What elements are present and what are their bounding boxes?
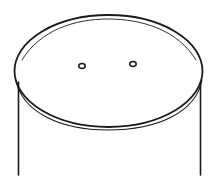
lid-rim-edge: [16, 80, 202, 130]
hole-icon: [130, 62, 136, 67]
lid-rim-outer: [15, 15, 203, 127]
hole-icon: [79, 64, 85, 69]
lid-rim-inner: [22, 19, 196, 60]
cylinder-drawing: [0, 0, 214, 185]
